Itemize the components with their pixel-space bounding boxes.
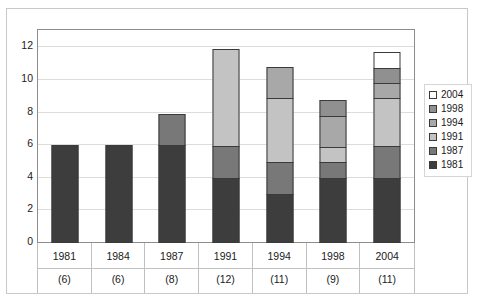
bar-segment[interactable] [266,98,293,163]
legend-item[interactable]: 1987 [429,144,468,158]
legend-item[interactable]: 1991 [429,130,468,144]
bar-segment[interactable] [105,145,132,243]
bar-segment[interactable] [266,67,293,100]
stacked-bar[interactable] [212,49,239,242]
stacked-bar[interactable] [159,114,186,242]
chart-legend: 200419981994199119871981 [424,84,472,177]
x-axis-category-label: 1994 [253,250,306,262]
bar-slot [253,30,307,242]
bar-segment[interactable] [374,83,401,99]
legend-item[interactable]: 1981 [429,158,468,172]
bar-slot [38,30,92,242]
stacked-bar[interactable] [51,145,78,242]
legend-swatch-icon [429,133,437,141]
x-axis-category-label: 1991 [199,250,252,262]
legend-swatch-icon [429,119,437,127]
stacked-bar[interactable] [105,145,132,242]
legend-item[interactable]: 2004 [429,88,468,102]
x-axis-row-divider [37,268,415,269]
bar-slot [145,30,199,242]
x-axis-category-label: 1998 [307,250,360,262]
bar-slot [360,30,414,242]
legend-swatch-icon [429,105,437,113]
y-axis-tick-label: 10 [3,73,33,83]
stacked-bar-chart: 024681012 1981(6)1984(6)1987(8)1991(12)1… [0,0,477,303]
legend-label: 1987 [441,146,463,156]
bar-segment[interactable] [374,98,401,147]
bar-slot [92,30,146,242]
bar-segment[interactable] [320,178,347,243]
y-axis-tick-label: 2 [3,203,33,213]
bar-segment[interactable] [212,49,239,147]
bar-slot [307,30,361,242]
legend-item[interactable]: 1998 [429,102,468,116]
legend-label: 1991 [441,132,463,142]
x-axis-count-label: (6) [92,273,145,285]
stacked-bar[interactable] [266,67,293,242]
x-axis-count-label: (8) [145,273,198,285]
y-axis-tick-label: 0 [3,236,33,246]
legend-label: 1998 [441,104,463,114]
y-axis-tick-labels: 024681012 [0,29,33,243]
y-axis-tick-label: 8 [3,106,33,116]
x-axis-category-label: 1984 [92,250,145,262]
bar-segment[interactable] [212,146,239,179]
bar-segment[interactable] [374,52,401,68]
x-axis-count-label: (9) [307,273,360,285]
bar-slot [199,30,253,242]
y-axis-tick-label: 4 [3,171,33,181]
x-axis-category-label: 1987 [145,250,198,262]
stacked-bar[interactable] [320,100,347,242]
legend-swatch-icon [429,91,437,99]
legend-label: 1994 [441,118,463,128]
bar-segment[interactable] [374,68,401,84]
bar-segment[interactable] [266,194,293,243]
bar-segment[interactable] [266,162,293,195]
x-axis-count-label: (6) [38,273,91,285]
x-axis-count-label: (12) [199,273,252,285]
bar-segment[interactable] [374,178,401,243]
bar-segment[interactable] [212,178,239,243]
x-axis-category-label: 2004 [360,250,414,262]
legend-label: 2004 [441,90,463,100]
bar-segment[interactable] [320,100,347,116]
legend-item[interactable]: 1994 [429,116,468,130]
x-axis-count-label: (11) [360,273,414,285]
stacked-bar[interactable] [374,52,401,242]
bar-segment[interactable] [159,145,186,243]
bar-segment[interactable] [320,116,347,149]
y-axis-tick-label: 6 [3,138,33,148]
bars-layer [38,30,414,242]
bar-segment[interactable] [320,147,347,163]
bar-segment[interactable] [320,162,347,178]
y-axis-tick-label: 12 [3,40,33,50]
legend-swatch-icon [429,147,437,155]
bar-segment[interactable] [51,145,78,243]
legend-label: 1981 [441,160,463,170]
legend-swatch-icon [429,161,437,169]
x-axis-category-label: 1981 [38,250,91,262]
bar-segment[interactable] [159,114,186,147]
bar-segment[interactable] [374,146,401,179]
x-axis-count-label: (11) [253,273,306,285]
